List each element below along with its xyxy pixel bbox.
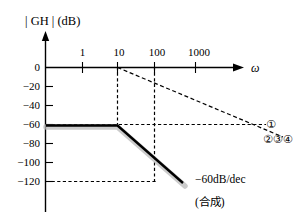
- y-axis-tick-labels: 0 −20 −40 −60 −80 −100 −120: [17, 61, 40, 187]
- x-tick-label-10: 10: [114, 46, 126, 58]
- y-tick-label-minus20: −20: [23, 80, 41, 92]
- y-tick-label-minus40: −40: [23, 99, 41, 111]
- curve-marker-234: ②③④: [263, 133, 293, 146]
- y-axis-title: | GH | (dB): [25, 14, 80, 28]
- slope-annotation: −60dB/dec: [195, 173, 246, 185]
- y-tick-label-minus100: −100: [17, 156, 40, 168]
- composite-curve-shadow: [46, 127, 185, 186]
- x-tick-label-1: 1: [80, 46, 86, 58]
- x-tick-label-1000: 1000: [188, 46, 211, 58]
- x-tick-label-100: 100: [149, 46, 166, 58]
- x-axis-omega-label: ω: [251, 61, 259, 75]
- bode-magnitude-plot: | GH | (dB) ω 1 10 100 1000: [0, 0, 307, 224]
- y-axis-arrowhead: [42, 31, 49, 41]
- y-tick-label-0: 0: [35, 61, 41, 73]
- series-1-dashed-curve: [118, 68, 284, 138]
- composite-curve: [46, 126, 183, 184]
- x-axis-tick-labels: 1 10 100 1000: [80, 46, 211, 58]
- curve-marker-1: ①: [266, 118, 276, 131]
- composite-annotation: (合成): [195, 195, 225, 209]
- y-tick-label-minus60: −60: [23, 118, 41, 130]
- y-axis-ticks: [46, 87, 54, 182]
- y-tick-label-minus120: −120: [17, 175, 40, 187]
- x-axis-arrowhead: [233, 64, 244, 72]
- y-tick-label-minus80: −80: [23, 137, 41, 149]
